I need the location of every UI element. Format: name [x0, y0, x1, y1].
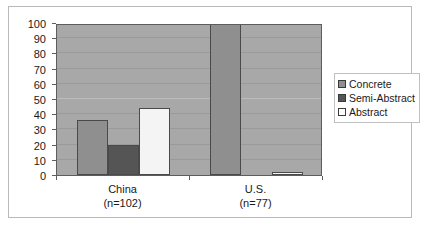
x-tick-mark: [56, 176, 57, 180]
bar-china-semi-abstract: [108, 145, 139, 175]
y-tick-label: 40: [34, 110, 46, 121]
chart-container: 1009080706050403020100 China(n=102)U.S.(…: [8, 6, 412, 218]
y-tick-label: 80: [34, 49, 46, 60]
legend-label: Abstract: [349, 106, 388, 118]
chart-legend: ConcreteSemi-AbstractAbstract: [334, 73, 420, 123]
y-tick-mark: [52, 175, 56, 176]
bar-us-abstract: [272, 172, 303, 175]
gridline: [57, 113, 321, 114]
y-tick-mark: [52, 23, 56, 24]
y-tick-label: 30: [34, 125, 46, 136]
y-tick-label: 100: [28, 19, 46, 30]
gridline: [57, 52, 321, 53]
y-tick-mark: [52, 129, 56, 130]
y-tick-mark: [52, 38, 56, 39]
y-tick-label: 0: [40, 171, 46, 182]
y-tick-label: 10: [34, 156, 46, 167]
y-axis: 1009080706050403020100: [9, 17, 50, 183]
y-tick-mark: [52, 84, 56, 85]
gridline: [57, 37, 321, 38]
bar-us-concrete: [210, 24, 241, 175]
y-tick-label: 60: [34, 80, 46, 91]
gridline: [57, 83, 321, 84]
legend-label: Semi-Abstract: [349, 92, 415, 104]
bar-china-abstract: [139, 108, 170, 175]
plot-area: [56, 24, 322, 176]
x-tick-mark: [189, 176, 190, 180]
legend-swatch-icon: [338, 108, 346, 116]
legend-swatch-icon: [338, 80, 346, 88]
y-tick-mark: [52, 53, 56, 54]
x-group-label: U.S.(n=77): [196, 182, 316, 210]
y-tick-label: 70: [34, 65, 46, 76]
legend-item-abstract: Abstract: [338, 105, 415, 119]
y-tick-mark: [52, 145, 56, 146]
y-tick-mark: [52, 160, 56, 161]
legend-label: Concrete: [349, 78, 392, 90]
y-tick-label: 20: [34, 141, 46, 152]
gridline: [57, 98, 321, 99]
bar-china-concrete: [77, 120, 108, 175]
gridline: [57, 68, 321, 69]
legend-item-semi-abstract: Semi-Abstract: [338, 91, 415, 105]
y-tick-label: 90: [34, 34, 46, 45]
y-tick-mark: [52, 99, 56, 100]
x-group-name: U.S.: [196, 182, 316, 196]
y-tick-mark: [52, 114, 56, 115]
x-tick-mark: [322, 176, 323, 180]
y-tick-label: 50: [34, 95, 46, 106]
x-group-count: (n=102): [63, 196, 183, 210]
x-group-count: (n=77): [196, 196, 316, 210]
legend-swatch-icon: [338, 94, 346, 102]
x-group-name: China: [63, 182, 183, 196]
y-tick-mark: [52, 69, 56, 70]
legend-item-concrete: Concrete: [338, 77, 415, 91]
x-group-label: China(n=102): [63, 182, 183, 210]
